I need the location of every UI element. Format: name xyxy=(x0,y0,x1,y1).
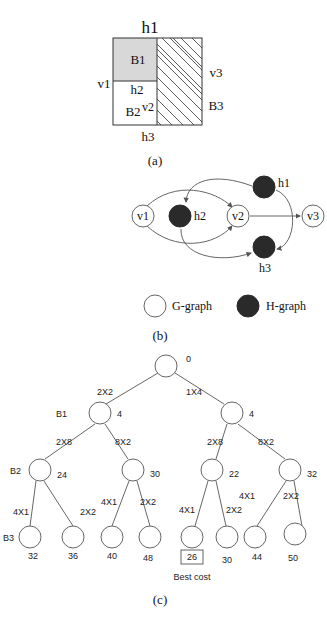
edge-label: 2X2 xyxy=(226,505,242,515)
legend-g-graph-icon xyxy=(144,295,166,317)
floorplan-panel: h1 B1 v1 h2 B2 v2 v3 B3 h3 (a) xyxy=(98,18,224,181)
level-label-b1: B1 xyxy=(56,409,67,419)
label-b2: B2 xyxy=(125,104,140,119)
label-b1: B1 xyxy=(130,52,145,67)
tree-edge xyxy=(257,481,286,526)
tree-edge xyxy=(44,481,73,526)
node-h3 xyxy=(253,236,275,258)
edge-label: 2X8 xyxy=(207,437,223,447)
label-v1: v1 xyxy=(98,76,111,91)
edge-label: 4X1 xyxy=(13,507,29,517)
tree-node-l1-left xyxy=(89,402,111,424)
caption-b: (b) xyxy=(152,328,167,343)
caption-a: (a) xyxy=(148,153,162,168)
level-label-b3: B3 xyxy=(3,533,14,543)
leaf-cost: 48 xyxy=(143,553,153,563)
node-cost: 32 xyxy=(307,469,317,479)
tree-leaf xyxy=(19,526,41,548)
legend-h-graph-label: H-graph xyxy=(266,299,306,313)
node-h2 xyxy=(169,205,191,227)
legend-g-graph-label: G-graph xyxy=(172,299,212,313)
caption-c: (c) xyxy=(153,592,167,607)
label-v3: v3 xyxy=(210,65,223,80)
legend-h-graph-icon xyxy=(237,295,259,317)
search-tree-panel: 0 2X2 1X4 B1 4 4 2X8 8X2 2X8 8X2 B2 24 3… xyxy=(3,354,317,607)
node-cost: 22 xyxy=(229,469,239,479)
node-h2-label: h2 xyxy=(194,209,206,223)
node-v3-label: v3 xyxy=(307,209,319,223)
tree-leaf xyxy=(101,526,123,548)
tree-node-l1-right xyxy=(221,402,243,424)
tree-leaf xyxy=(244,526,266,548)
figure-canvas: h1 B1 v1 h2 B2 v2 v3 B3 h3 (a) v1 h2 v2 … xyxy=(0,0,327,627)
edge-label: 2X8 xyxy=(56,437,72,447)
tree-node-l2 xyxy=(279,459,301,481)
edge-v1-v2-top xyxy=(147,190,232,207)
edge-label: 2X2 xyxy=(80,507,96,517)
tree-leaf xyxy=(216,526,238,548)
label-h1: h1 xyxy=(142,18,159,37)
leaf-cost: 30 xyxy=(222,555,232,565)
node-v1-label: v1 xyxy=(137,209,149,223)
tree-leaf xyxy=(284,523,306,545)
tree-edge xyxy=(294,481,302,526)
tree-edge xyxy=(106,373,158,404)
leaf-cost: 50 xyxy=(288,553,298,563)
best-cost-label: Best cost xyxy=(173,572,211,582)
leaf-cost-best: 26 xyxy=(187,552,197,562)
tree-edge xyxy=(30,481,36,526)
edge-label: 4X1 xyxy=(239,491,255,501)
edge-label: 2X2 xyxy=(283,491,299,501)
node-h1 xyxy=(253,176,275,198)
leaf-cost: 36 xyxy=(68,551,78,561)
edge-label: 8X2 xyxy=(115,437,131,447)
edge-label: 4X1 xyxy=(179,505,195,515)
edge-label: 2X2 xyxy=(97,387,113,397)
edge-label: 1X4 xyxy=(186,387,202,397)
node-cost: 30 xyxy=(150,469,160,479)
tree-edge xyxy=(195,481,208,526)
tree-node-l2 xyxy=(29,459,51,481)
edge-label: 2X2 xyxy=(140,497,156,507)
node-v2-label: v2 xyxy=(232,209,244,223)
tree-root xyxy=(155,355,177,377)
tree-leaf xyxy=(62,526,84,548)
label-v2: v2 xyxy=(142,100,154,114)
tree-edge xyxy=(216,481,226,526)
leaf-cost: 44 xyxy=(252,552,262,562)
node-h1-label: h1 xyxy=(278,176,290,190)
node-cost: 4 xyxy=(249,409,254,419)
leaf-cost: 40 xyxy=(107,551,117,561)
tree-node-l2 xyxy=(201,459,223,481)
node-h3-label: h3 xyxy=(259,261,271,275)
label-h2: h2 xyxy=(131,82,144,97)
graph-panel: v1 h2 v2 v3 h1 h3 G-graph H-graph (b) xyxy=(132,176,324,343)
edge-label: 4X1 xyxy=(101,497,117,507)
root-cost: 0 xyxy=(186,354,191,364)
tree-leaf xyxy=(139,526,161,548)
edge-v1-v2-bottom xyxy=(147,226,232,243)
tree-leaf xyxy=(181,526,203,548)
edge-label: 8X2 xyxy=(258,437,274,447)
level-label-b2: B2 xyxy=(10,466,21,476)
edge-h1-h3 xyxy=(276,190,293,249)
node-cost: 24 xyxy=(57,470,67,480)
tree-node-l2 xyxy=(122,459,144,481)
leaf-cost: 32 xyxy=(28,551,38,561)
label-h3: h3 xyxy=(142,129,155,144)
node-cost: 4 xyxy=(117,409,122,419)
label-b3: B3 xyxy=(208,98,223,113)
